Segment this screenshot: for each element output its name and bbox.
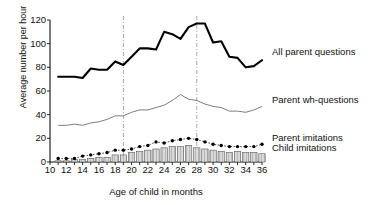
marker-parent-imitations	[211, 143, 214, 146]
bar-child-imitations	[96, 157, 102, 162]
x-axis-tick-label: 18	[107, 165, 123, 175]
bar-child-imitations	[243, 153, 249, 162]
x-axis-tick-label: 12	[58, 165, 74, 175]
bar-child-imitations	[259, 154, 265, 162]
bar-child-imitations	[161, 148, 167, 162]
marker-parent-imitations	[114, 148, 117, 151]
bar-child-imitations	[55, 161, 61, 162]
x-axis-tick-label: 36	[254, 165, 270, 175]
marker-parent-imitations	[220, 144, 223, 147]
x-axis-title: Age of child in months	[50, 186, 262, 197]
bar-child-imitations	[120, 155, 126, 162]
bar-child-imitations	[128, 153, 134, 162]
marker-parent-imitations	[56, 157, 59, 160]
bar-child-imitations	[226, 153, 232, 162]
bar-child-imitations	[104, 157, 110, 162]
marker-parent-imitations	[105, 151, 108, 154]
bar-child-imitations	[137, 151, 143, 162]
x-axis-tick-label: 14	[75, 165, 91, 175]
bar-child-imitations	[177, 147, 183, 162]
bar-child-imitations	[153, 149, 159, 162]
legend-label-parent-wh-questions: Parent wh-questions	[272, 94, 359, 105]
bar-child-imitations	[210, 150, 216, 162]
bar-child-imitations	[202, 149, 208, 162]
line-all-parent-questions	[58, 24, 262, 78]
bar-child-imitations	[185, 145, 191, 162]
x-axis-tick-label: 24	[156, 165, 172, 175]
bar-child-imitations	[63, 161, 69, 162]
marker-parent-imitations	[203, 140, 206, 143]
marker-parent-imitations	[89, 153, 92, 156]
marker-parent-imitations	[154, 140, 157, 143]
bar-child-imitations	[218, 151, 224, 162]
x-axis-tick-label: 32	[221, 165, 237, 175]
x-axis-tick-label: 28	[189, 165, 205, 175]
marker-parent-imitations	[130, 147, 133, 150]
marker-parent-imitations	[73, 157, 76, 160]
bar-child-imitations	[234, 151, 240, 162]
x-axis-tick-label: 22	[140, 165, 156, 175]
marker-parent-imitations	[244, 145, 247, 148]
marker-parent-imitations	[65, 157, 68, 160]
line-parent-wh-questions	[58, 95, 262, 126]
marker-parent-imitations	[97, 152, 100, 155]
marker-parent-imitations	[138, 145, 141, 148]
marker-parent-imitations	[171, 139, 174, 142]
x-axis-tick-label: 10	[42, 165, 58, 175]
x-axis-tick-label: 34	[238, 165, 254, 175]
bar-child-imitations	[145, 150, 151, 162]
bar-child-imitations	[194, 148, 200, 162]
chart-figure: Average number per hour 020406080100120 …	[0, 0, 379, 205]
legend-label-child-imitations: Child imitations	[272, 142, 336, 153]
marker-parent-imitations	[146, 144, 149, 147]
marker-parent-imitations	[228, 145, 231, 148]
marker-parent-imitations	[179, 138, 182, 141]
marker-parent-imitations	[260, 143, 263, 146]
x-axis-tick-label: 26	[172, 165, 188, 175]
bar-child-imitations	[169, 147, 175, 162]
x-axis-tick-label: 30	[205, 165, 221, 175]
marker-parent-imitations	[187, 137, 190, 140]
marker-parent-imitations	[162, 141, 165, 144]
x-axis-tick-labels: 1012141618202224262830323436	[0, 165, 379, 179]
bar-child-imitations	[251, 153, 257, 162]
bar-child-imitations	[79, 160, 85, 162]
x-axis-tick-label: 20	[124, 165, 140, 175]
marker-parent-imitations	[252, 145, 255, 148]
marker-parent-imitations	[195, 138, 198, 141]
marker-parent-imitations	[81, 154, 84, 157]
x-axis-tick-label: 16	[91, 165, 107, 175]
marker-parent-imitations	[236, 145, 239, 148]
bar-child-imitations	[112, 155, 118, 162]
legend-label-all-parent-questions: All parent questions	[272, 46, 355, 57]
marker-parent-imitations	[122, 148, 125, 151]
bar-child-imitations	[88, 158, 94, 162]
